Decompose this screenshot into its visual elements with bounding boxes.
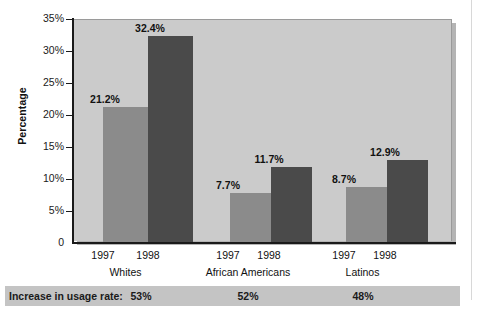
y-tick-label-5: 5% xyxy=(22,205,64,216)
bar-value-whites-1997: 21.2% xyxy=(80,93,130,105)
bar-african-americans-1998[interactable] xyxy=(271,167,312,242)
bar-latinos-1997[interactable] xyxy=(346,187,387,242)
increase-rate-value-african-americans: 52% xyxy=(225,290,271,302)
bar-african-americans-1997[interactable] xyxy=(230,193,271,242)
y-tick-label-5-wrap: 5% xyxy=(20,205,64,216)
x-axis-line xyxy=(72,242,456,244)
bar-whites-1998[interactable] xyxy=(148,36,193,242)
y-tick-label-0-wrap: 0 xyxy=(20,237,64,248)
y-tick-mark-15 xyxy=(66,147,73,148)
x-tick-label-african-americans-1998: 1998 xyxy=(248,249,290,261)
y-tick-mark-5 xyxy=(66,211,73,212)
x-tick-label-african-americans-1997: 1997 xyxy=(207,249,249,261)
increase-rate-value-latinos: 48% xyxy=(340,290,386,302)
y-tick-label-35: 35% xyxy=(22,13,64,24)
bar-value-african-americans-1998: 11.7% xyxy=(245,153,293,165)
y-tick-label-25-wrap: 25% xyxy=(20,77,64,88)
bar-value-african-americans-1997: 7.7% xyxy=(205,179,251,191)
y-tick-label-10: 10% xyxy=(22,173,64,184)
bar-value-latinos-1997: 8.7% xyxy=(321,173,367,185)
y-tick-label-20-wrap: 20% xyxy=(20,109,64,120)
bar-value-whites-1998: 32.4% xyxy=(125,22,175,34)
y-tick-label-30: 30% xyxy=(22,45,64,56)
group-label-african-americans: African Americans xyxy=(198,266,298,278)
y-tick-mark-20 xyxy=(66,115,73,116)
group-label-latinos: Latinos xyxy=(315,266,410,278)
increase-rate-value-whites: 53% xyxy=(118,290,164,302)
increase-rate-label: Increase in usage rate: xyxy=(9,290,123,302)
y-tick-mark-25 xyxy=(66,83,73,84)
x-tick-label-latinos-1997: 1997 xyxy=(323,249,365,261)
y-tick-label-30-wrap: 30% xyxy=(20,45,64,56)
x-tick-label-latinos-1998: 1998 xyxy=(364,249,406,261)
y-tick-mark-10 xyxy=(66,179,73,180)
x-tick-label-whites-1997: 1997 xyxy=(80,249,126,261)
y-tick-label-15-wrap: 15% xyxy=(20,141,64,152)
right-hairline-divider xyxy=(471,0,472,300)
y-tick-label-0: 0 xyxy=(22,237,64,248)
y-tick-label-25: 25% xyxy=(22,77,64,88)
bar-latinos-1998[interactable] xyxy=(387,160,428,242)
y-tick-label-20: 20% xyxy=(22,109,64,120)
y-tick-label-10-wrap: 10% xyxy=(20,173,64,184)
y-tick-mark-30 xyxy=(66,51,73,52)
y-tick-label-35-wrap: 35% xyxy=(20,13,64,24)
bar-value-latinos-1998: 12.9% xyxy=(361,146,409,158)
bar-whites-1997[interactable] xyxy=(103,107,148,242)
y-tick-label-15: 15% xyxy=(22,141,64,152)
bars-layer xyxy=(73,19,452,242)
group-label-whites: Whites xyxy=(78,266,173,278)
x-tick-label-whites-1998: 1998 xyxy=(125,249,171,261)
bar-chart-figure: Percentage 35% 30% 25% 20% 15% 10% 5% 0 xyxy=(0,0,485,313)
y-tick-mark-35 xyxy=(66,19,73,20)
